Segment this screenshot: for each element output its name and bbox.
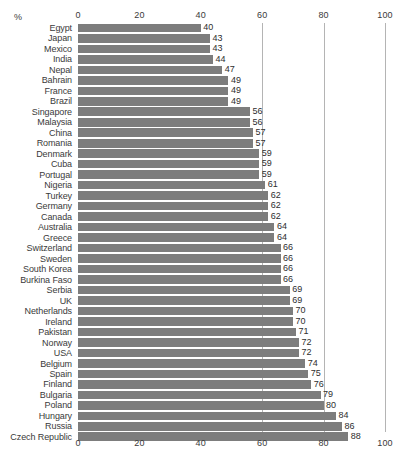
x-tick-top-20: 20 <box>134 10 144 20</box>
category-label: Finland <box>0 379 75 389</box>
bar-value-label: 66 <box>281 275 294 285</box>
bar <box>78 328 296 337</box>
bar-row: 74 <box>78 359 385 369</box>
category-label: Netherlands <box>0 306 75 316</box>
bar-row: 66 <box>78 243 385 253</box>
bar <box>78 128 253 137</box>
bar-value-label: 72 <box>299 338 312 348</box>
bar <box>78 170 259 179</box>
bar-value-label: 70 <box>293 317 306 327</box>
bar-row: 47 <box>78 65 385 75</box>
bar-value-label: 57 <box>253 128 266 138</box>
bar-value-label: 59 <box>259 149 272 159</box>
bar-value-label: 71 <box>296 327 309 337</box>
bar-row: 62 <box>78 201 385 211</box>
bar <box>78 254 281 263</box>
bar-row: 56 <box>78 107 385 117</box>
bar <box>78 359 305 368</box>
bar-value-label: 59 <box>259 170 272 180</box>
category-label: Australia <box>0 222 75 232</box>
bar-row: 72 <box>78 338 385 348</box>
gridline-100 <box>385 23 386 432</box>
bar-value-label: 86 <box>342 422 355 432</box>
bar-row: 62 <box>78 212 385 222</box>
bar-value-label: 49 <box>228 86 241 96</box>
category-label: Turkey <box>0 191 75 201</box>
bar-row: 64 <box>78 233 385 243</box>
category-label: Brazil <box>0 96 75 106</box>
category-label: Singapore <box>0 107 75 117</box>
category-label: Cuba <box>0 159 75 169</box>
category-label: France <box>0 86 75 96</box>
bar-value-label: 79 <box>321 390 334 400</box>
category-label: Romania <box>0 138 75 148</box>
bar-row: 49 <box>78 96 385 106</box>
bar-value-label: 43 <box>210 34 223 44</box>
x-tick-top-80: 80 <box>318 10 328 20</box>
bar-value-label: 56 <box>250 118 263 128</box>
bar <box>78 66 222 75</box>
category-label: Ireland <box>0 317 75 327</box>
bar-value-label: 40 <box>201 23 214 33</box>
bar <box>78 181 265 190</box>
category-label: Mexico <box>0 44 75 54</box>
bar <box>78 265 281 274</box>
bar-value-label: 64 <box>274 233 287 243</box>
bar-row: 70 <box>78 317 385 327</box>
bar-chart: % 020406080100 EgyptJapanMexicoIndiaNepa… <box>0 0 408 455</box>
plot-area: 4043434447494949565657575959596162626264… <box>78 23 385 432</box>
category-label: Greece <box>0 233 75 243</box>
category-label: Poland <box>0 400 75 410</box>
bar-row: 79 <box>78 390 385 400</box>
x-tick-top-100: 100 <box>377 10 393 20</box>
bar-value-label: 49 <box>228 97 241 107</box>
x-tick-top-40: 40 <box>196 10 206 20</box>
axis-unit-label: % <box>14 12 22 22</box>
category-label: Japan <box>0 33 75 43</box>
category-label: Hungary <box>0 411 75 421</box>
bar-value-label: 62 <box>268 212 281 222</box>
bar <box>78 370 308 379</box>
category-label: Egypt <box>0 23 75 33</box>
bar-row: 40 <box>78 23 385 33</box>
bar <box>78 45 210 54</box>
bar <box>78 296 290 305</box>
bar-value-label: 62 <box>268 191 281 201</box>
bar <box>78 380 311 389</box>
bar <box>78 24 201 33</box>
category-label: Serbia <box>0 285 75 295</box>
bar <box>78 87 228 96</box>
x-tick-top-60: 60 <box>257 10 267 20</box>
bar-row: 76 <box>78 379 385 389</box>
bar <box>78 338 299 347</box>
category-label: South Korea <box>0 264 75 274</box>
bar-value-label: 59 <box>259 159 272 169</box>
bar-row: 57 <box>78 128 385 138</box>
bar-value-label: 69 <box>290 285 303 295</box>
category-label: Belgium <box>0 359 75 369</box>
bar <box>78 223 274 232</box>
bar-value-label: 66 <box>281 243 294 253</box>
bar-value-label: 88 <box>348 432 361 442</box>
bar-value-label: 72 <box>299 348 312 358</box>
bar <box>78 307 293 316</box>
x-tick-bottom-100: 100 <box>377 438 393 448</box>
x-tick-bottom-0: 0 <box>75 438 80 448</box>
category-label: Czech Republic <box>0 432 75 442</box>
bar <box>78 317 293 326</box>
bar <box>78 286 290 295</box>
category-label: China <box>0 128 75 138</box>
bar-row: 57 <box>78 138 385 148</box>
bar <box>78 55 213 64</box>
bar <box>78 432 348 441</box>
bar <box>78 191 268 200</box>
bar-value-label: 49 <box>228 76 241 86</box>
bar <box>78 139 253 148</box>
category-label: Malaysia <box>0 117 75 127</box>
bar-row: 75 <box>78 369 385 379</box>
category-label: Portugal <box>0 170 75 180</box>
category-label: Nigeria <box>0 180 75 190</box>
bar <box>78 34 210 43</box>
category-label: Sweden <box>0 254 75 264</box>
x-tick-bottom-20: 20 <box>134 438 144 448</box>
